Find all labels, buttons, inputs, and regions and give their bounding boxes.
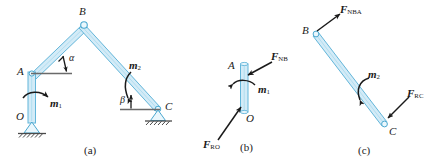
node-label-A-b: A	[228, 60, 235, 71]
couple-m1-symbol: m	[50, 97, 59, 109]
node-label-A: A	[17, 66, 24, 77]
force-F-NB-arrow	[248, 62, 272, 75]
force-label-F-NBA: FNBA	[340, 4, 362, 16]
joint-B-pin-c	[313, 31, 319, 37]
figure-container: A B C O α β m1 m2 (a) A O FNB m1 FRO (b)…	[0, 0, 431, 168]
force-F-NB-subscript: NB	[278, 55, 287, 62]
node-label-B: B	[79, 6, 86, 17]
force-F-NBA-arrow	[317, 14, 340, 31]
pin-support-O	[18, 122, 46, 138]
couple-m2-symbol-c: m	[368, 68, 377, 80]
node-label-B-c: B	[302, 25, 309, 36]
joint-B-pin	[81, 22, 88, 29]
member-OA	[28, 72, 36, 123]
force-label-F-NB: FNB	[271, 51, 288, 63]
angle-label-alpha: α	[69, 53, 74, 63]
couple-m1-subscript: 1	[59, 102, 62, 109]
couple-m2-subscript-c: 2	[377, 73, 380, 80]
couple-m1-symbol-b: m	[258, 83, 267, 95]
couple-label-m2: m2	[129, 60, 141, 72]
pin-support-C	[145, 110, 172, 125]
force-label-F-RC: FRC	[407, 88, 423, 100]
panel-caption-a: (a)	[84, 145, 96, 156]
couple-m2-subscript: 2	[138, 64, 141, 71]
angle-alpha-arrow	[63, 56, 67, 72]
angle-label-beta: β	[120, 95, 125, 105]
panel-a-graphics	[18, 22, 172, 138]
member-AB	[31, 24, 88, 79]
force-F-RO-subscript: RO	[210, 143, 219, 150]
node-label-O-b: O	[246, 113, 254, 124]
force-F-NBA-subscript: NBA	[347, 8, 361, 15]
panel-c-graphics	[313, 14, 409, 127]
panel-caption-c: (c)	[358, 145, 370, 156]
force-label-F-RO: FRO	[203, 139, 220, 151]
node-label-C: C	[165, 101, 172, 112]
node-label-O: O	[16, 111, 24, 122]
couple-label-m1: m1	[50, 98, 62, 110]
joint-C-pin-c	[382, 121, 388, 127]
panel-b-graphics	[218, 62, 272, 140]
force-F-RC-arrow	[388, 97, 409, 118]
couple-label-m2-c: m2	[368, 69, 380, 81]
force-F-RO-arrow	[218, 107, 241, 140]
node-label-C-c: C	[389, 126, 396, 137]
couple-m1-subscript-b: 1	[267, 88, 270, 95]
panel-caption-b: (b)	[240, 142, 253, 153]
force-F-RC-subscript: RC	[414, 92, 423, 99]
couple-label-m1-b: m1	[258, 84, 270, 96]
couple-m2-symbol: m	[129, 59, 138, 71]
